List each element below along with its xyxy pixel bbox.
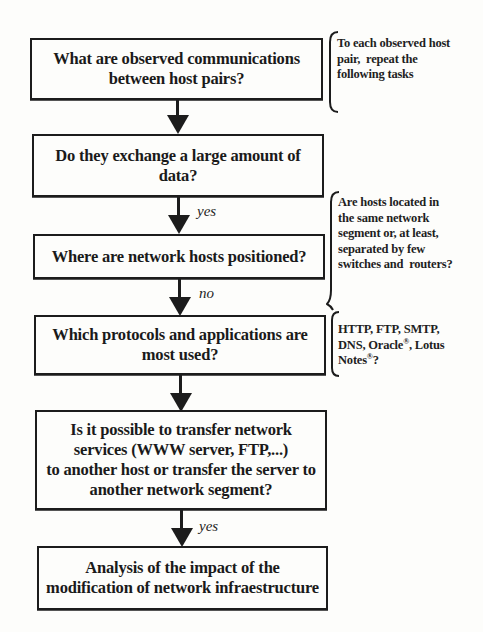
note-line: DNS, Oracle®, Lotus xyxy=(338,338,444,354)
arrow-down-icon xyxy=(171,528,193,547)
note-line: following tasks xyxy=(337,67,450,83)
edge-label-yes: yes xyxy=(197,203,216,220)
note-line: Are hosts located in xyxy=(338,195,452,211)
arrow-down-icon xyxy=(169,297,191,316)
flow-node-protocols-used: Which protocols and applications are mos… xyxy=(34,315,326,375)
node-text-line: Do they exchange a large amount of xyxy=(55,146,300,166)
note-line: Notes®? xyxy=(338,353,444,369)
note-line: To each observed host xyxy=(337,36,450,52)
node-text-line: What are observed communications xyxy=(53,49,300,69)
edge-label-yes: yes xyxy=(199,518,218,535)
note-line: HTTP, FTP, SMTP, xyxy=(338,322,444,338)
arrow-shaft xyxy=(179,375,182,395)
arrow-shaft xyxy=(180,510,183,530)
note-line: pair, repeat the xyxy=(337,52,450,68)
note-line: the same network xyxy=(338,211,452,227)
note-line: separated by few xyxy=(338,242,452,258)
node-text-line: Where are network hosts positioned? xyxy=(52,247,307,267)
flow-node-transfer-services: Is it possible to transfer network servi… xyxy=(35,410,327,510)
arrow-shaft xyxy=(178,279,181,299)
node-text-line: Analysis of the impact of the xyxy=(46,558,319,578)
node-text-line: to another host or transfer the server t… xyxy=(46,460,316,480)
note-line: segment or, at least, xyxy=(338,226,452,242)
node-text-line: another network segment? xyxy=(46,480,316,500)
arrow-shaft xyxy=(177,197,180,217)
node-text-line: data? xyxy=(55,166,300,186)
annotation-host-location: Are hosts located in the same network se… xyxy=(338,195,452,273)
node-text-line: Is it possible to transfer network xyxy=(46,420,316,440)
node-text-line: between host pairs? xyxy=(53,69,300,89)
flow-node-impact-analysis: Analysis of the impact of the modificati… xyxy=(37,546,328,610)
arrow-down-icon xyxy=(167,115,189,134)
flow-node-host-positions: Where are network hosts positioned? xyxy=(33,234,325,279)
node-text-line: most used? xyxy=(52,345,307,365)
annotation-protocols: HTTP, FTP, SMTP, DNS, Oracle®, Lotus Not… xyxy=(338,322,444,369)
annotation-repeat-tasks: To each observed host pair, repeat the f… xyxy=(337,36,450,83)
flow-node-large-data-exchange: Do they exchange a large amount of data? xyxy=(32,134,324,197)
node-text-line: services (WWW server, FTP,...) xyxy=(46,440,316,460)
note-line: switches and routers? xyxy=(338,257,452,273)
arrow-down-icon xyxy=(168,215,190,234)
node-text-line: Which protocols and applications are xyxy=(52,325,307,345)
node-text-line: modification of network infraestructure xyxy=(46,578,319,598)
flow-node-observed-communications: What are observed communications between… xyxy=(30,38,323,100)
edge-label-no: no xyxy=(199,285,214,302)
